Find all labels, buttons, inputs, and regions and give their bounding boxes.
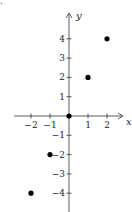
y-tick-label: 4 [59,34,65,44]
data-point [28,191,33,196]
x-tick-label: 2 [104,120,110,130]
data-point [47,152,52,157]
y-tick-label: −4 [52,188,66,198]
data-point [66,113,71,118]
y-axis-label: y [75,10,82,21]
y-tick-label: 1 [59,92,65,102]
x-tick-label: 1 [85,120,91,130]
x-tick-label: −2 [24,120,37,130]
y-tick-label: −3 [52,169,66,179]
scatter-plot: xy −2−1124321−1−2−3−4 [0,0,132,212]
y-tick-label: −2 [52,150,65,160]
axes: xy [14,10,132,212]
data-point [104,36,109,41]
y-tick-label: −1 [52,130,65,140]
x-axis-label: x [126,116,132,127]
x-tick-label: −1 [43,120,56,130]
y-tick-label: 2 [59,72,65,82]
data-point [85,75,90,80]
y-tick-label: 3 [59,53,65,63]
